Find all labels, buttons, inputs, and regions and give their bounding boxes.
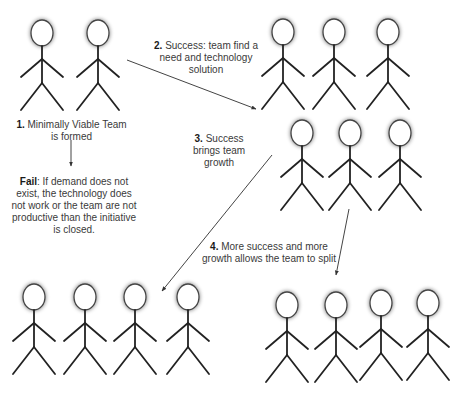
split-team-left (13, 284, 209, 374)
head-icon (31, 20, 53, 46)
head-icon (325, 292, 347, 318)
head-icon (23, 284, 45, 310)
head-icon (74, 284, 96, 310)
step2-label: 2. Success: team find a need and technol… (152, 40, 260, 76)
stick-figure (266, 292, 308, 382)
head-icon (417, 290, 439, 316)
success-team (262, 19, 409, 109)
head-icon (291, 120, 313, 146)
head-icon (389, 120, 411, 146)
stick-figure (315, 292, 357, 382)
stick-figure (64, 284, 106, 374)
stick-figure (367, 19, 409, 109)
head-icon (272, 19, 294, 45)
stick-figure (281, 120, 323, 210)
head-icon (339, 120, 361, 146)
arrow-step3 (162, 155, 272, 291)
stick-figure (77, 20, 119, 110)
stick-figure (407, 290, 449, 380)
head-icon (124, 284, 146, 310)
stick-figure (13, 284, 55, 374)
stick-figure (21, 20, 63, 110)
stick-figure (360, 290, 402, 380)
stick-figure (313, 19, 355, 109)
step3-label: 3. Success brings team growth (190, 133, 248, 169)
head-icon (87, 20, 109, 46)
step1-label: 1. Minimally Viable Team is formed (14, 119, 129, 143)
head-icon (377, 19, 399, 45)
step4-label: 4. More success and more growth allows t… (198, 241, 340, 265)
stick-figure (262, 19, 304, 109)
stick-figure (379, 120, 421, 210)
head-icon (323, 19, 345, 45)
split-team-right (266, 290, 449, 382)
growth-team (281, 120, 421, 210)
head-icon (177, 284, 199, 310)
stick-figure (167, 284, 209, 374)
stick-figure (329, 120, 371, 210)
minimally-viable-team (21, 20, 119, 110)
head-icon (370, 290, 392, 316)
head-icon (276, 292, 298, 318)
stick-figure (114, 284, 156, 374)
fail-label: Fail: If demand does not exist, the tech… (10, 176, 138, 236)
